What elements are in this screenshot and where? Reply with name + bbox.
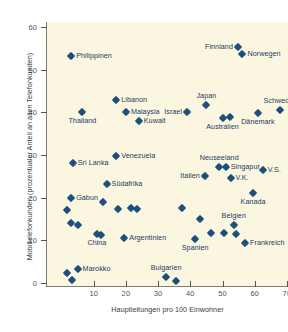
data-point-label: Argentinien [129, 234, 166, 242]
x-tick-mark [287, 281, 288, 287]
data-point-label: Malaysia [131, 108, 160, 116]
x-tick-label: 30 [148, 289, 168, 298]
x-tick-label: 60 [245, 289, 265, 298]
data-point-label: Australien [206, 123, 238, 131]
data-point-label: Finnland [205, 43, 233, 51]
data-point-label: Singapur [231, 163, 260, 171]
data-point-label: Marokko [83, 265, 111, 273]
data-point-label: Südafrika [112, 180, 143, 188]
y-tick-label: 60 [21, 23, 37, 32]
y-axis-line [46, 22, 47, 286]
x-tick-mark [223, 281, 224, 287]
data-point-label: Kanada [241, 198, 266, 206]
y-tick-mark [41, 198, 47, 199]
y-tick-mark [41, 155, 47, 156]
data-point-label: China [87, 239, 106, 247]
data-point-label: Venezuela [121, 152, 155, 160]
data-point-label: Spanien [182, 244, 209, 252]
data-point-label: Schweden [263, 97, 288, 105]
y-tick-mark [41, 240, 47, 241]
x-tick-mark [126, 281, 127, 287]
y-axis-title: Mobiltelefonkunden (prozentualer Anteil … [25, 32, 34, 282]
data-point-label: Belgien [222, 212, 246, 220]
x-tick-label: 50 [213, 289, 233, 298]
data-point-label: Bulgarien [151, 264, 182, 272]
data-point-label: V.S. [268, 166, 281, 174]
data-point-label: Gabun [76, 194, 98, 202]
data-point-label: Norwegen [247, 50, 280, 58]
x-tick-mark [190, 281, 191, 287]
x-tick-label: 20 [116, 289, 136, 298]
y-tick-mark [41, 112, 47, 113]
data-point-label: Israel [164, 108, 182, 116]
x-tick-label: 10 [84, 289, 104, 298]
data-point-label: Thailand [68, 117, 96, 125]
data-point-label: Frankreich [250, 239, 284, 247]
data-point-label: Japan [196, 92, 216, 100]
y-tick-mark [41, 70, 47, 71]
x-axis-line [46, 286, 288, 287]
data-point-label: Philippinen [76, 52, 112, 60]
data-point-label: Dänemark [241, 118, 275, 126]
data-point-label: V.K. [236, 174, 249, 182]
data-point-label: Neuseeland [200, 154, 239, 162]
x-tick-label: 70 [277, 289, 288, 298]
x-tick-mark [158, 281, 159, 287]
scatter-chart-figure: 0102030405060 10203040506070 Philippinen… [0, 0, 288, 332]
y-tick-mark [41, 27, 47, 28]
data-point-label: Italien [180, 172, 200, 180]
data-point-label: Kuwait [144, 117, 166, 125]
data-point-label: Libanon [121, 96, 147, 104]
data-point-label: Sri Lanka [78, 159, 109, 167]
y-tick-mark [41, 283, 47, 284]
x-tick-label: 40 [180, 289, 200, 298]
x-tick-mark [94, 281, 95, 287]
x-tick-mark [255, 281, 256, 287]
x-axis-title: Hauptleitungen pro 100 Einwohner [47, 305, 288, 314]
